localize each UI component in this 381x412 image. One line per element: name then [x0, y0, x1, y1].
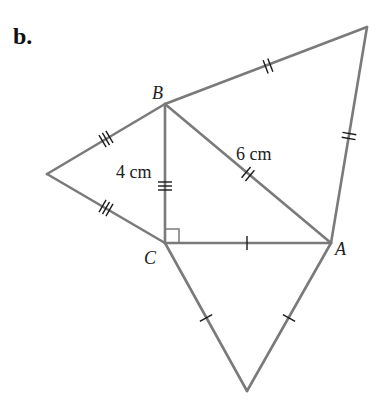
single-tick-marks — [200, 236, 295, 321]
edge-bottomapex-A — [247, 243, 331, 391]
part-label: b. — [13, 23, 32, 49]
edge-AB — [165, 104, 331, 243]
edge-B-toprightapex — [165, 27, 367, 104]
right-triangle-ABC — [165, 104, 331, 243]
measurement-AB: 6 cm — [236, 144, 272, 164]
edge-C-bottomapex — [165, 243, 247, 391]
vertex-label-C: C — [144, 248, 157, 268]
top-equilateral-triangle — [165, 27, 367, 243]
vertex-label-B: B — [152, 83, 163, 103]
measurement-BC: 4 cm — [116, 162, 152, 182]
vertex-label-A: A — [334, 239, 347, 259]
right-angle-marker — [165, 229, 179, 243]
bottom-equilateral-triangle — [165, 243, 331, 391]
geometry-diagram: b. — [0, 0, 381, 412]
edge-toprightapex-A — [331, 27, 367, 243]
